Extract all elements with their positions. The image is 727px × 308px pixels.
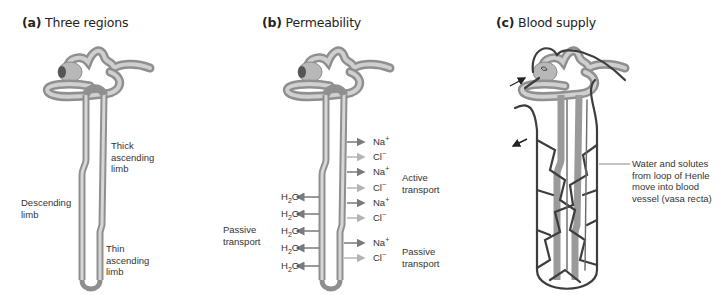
label-line: vessel (vasa recta) [632, 193, 712, 205]
panel-a-title: (a) Three regions [22, 15, 128, 30]
label-active-transport: Active transport [402, 172, 440, 195]
label-line: ascending [106, 255, 149, 267]
nephron-c [510, 48, 630, 288]
label-line: Passive [223, 224, 261, 236]
panel-c-title: (c) Blood supply [496, 15, 596, 30]
ion-na: Na+ [373, 166, 389, 177]
ion-h2o: H2O [281, 242, 299, 253]
label-line: transport [402, 184, 440, 196]
label-line: Water and solutes [632, 158, 712, 170]
panel-c-letter: (c) [496, 15, 514, 30]
panel-b-title-text: Permeability [286, 15, 361, 30]
ion-cl: Cl− [373, 151, 386, 162]
panel-a-letter: (a) [22, 15, 41, 30]
ion-cl: Cl− [373, 252, 386, 263]
label-passive-transport-left: Passive transport [223, 224, 261, 247]
ion-cl: Cl− [373, 212, 386, 223]
panel-c-title-text: Blood supply [518, 15, 596, 30]
ion-h2o: H2O [281, 260, 299, 271]
ion-na: Na+ [373, 136, 389, 147]
label-line: ascending [111, 152, 154, 164]
label-line: limb [111, 163, 154, 175]
label-line: from loop of Henle [632, 170, 712, 182]
label-thick-ascending-limb: Thick ascending limb [111, 140, 154, 175]
panel-b-letter: (b) [262, 15, 282, 30]
label-passive-transport-right: Passive transport [402, 246, 440, 269]
label-vasa-recta-annotation: Water and solutes from loop of Henle mov… [632, 158, 712, 204]
ion-h2o: H2O [281, 225, 299, 236]
label-line: transport [402, 258, 440, 270]
label-line: move into blood [632, 181, 712, 193]
label-line: Thick [111, 140, 154, 152]
ion-cl: Cl− [373, 182, 386, 193]
panel-a-title-text: Three regions [45, 15, 128, 30]
label-line: limb [106, 266, 149, 278]
label-line: transport [223, 236, 261, 248]
label-thin-ascending-limb: Thin ascending limb [106, 243, 149, 278]
label-descending-limb: Descending limb [21, 197, 71, 220]
label-line: Thin [106, 243, 149, 255]
ion-h2o: H2O [281, 191, 299, 202]
label-line: Passive [402, 246, 440, 258]
ion-na: Na+ [373, 237, 389, 248]
water-arrows-left [297, 197, 319, 266]
label-line: limb [21, 209, 71, 221]
ion-arrows-right [344, 142, 364, 258]
label-line: Active [402, 172, 440, 184]
panel-b-title: (b) Permeability [262, 15, 361, 30]
label-line: Descending [21, 197, 71, 209]
ion-na: Na+ [373, 197, 389, 208]
ion-h2o: H2O [281, 208, 299, 219]
